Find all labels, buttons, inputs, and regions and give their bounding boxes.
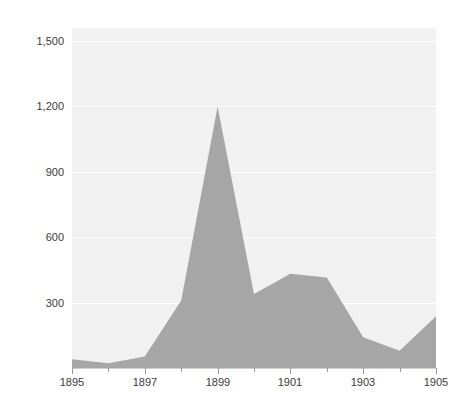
x-tick-minor-1896 xyxy=(108,368,109,372)
y-tick-label-300: 300 xyxy=(0,297,64,309)
x-tick-major-1903 xyxy=(363,368,364,374)
x-axis-tick-labels: 189518971899190119031905 xyxy=(72,376,437,392)
x-tick-minor-1898 xyxy=(181,368,182,372)
plot-area xyxy=(72,28,436,368)
x-tick-label-1903: 1903 xyxy=(333,376,393,388)
x-axis-ticks xyxy=(72,368,437,374)
x-tick-major-1897 xyxy=(145,368,146,374)
x-tick-label-1901: 1901 xyxy=(260,376,320,388)
x-tick-label-1899: 1899 xyxy=(188,376,248,388)
area-series-polygon xyxy=(72,106,436,368)
x-tick-minor-1900 xyxy=(254,368,255,372)
area-series-mergers xyxy=(72,28,436,368)
x-tick-label-1895: 1895 xyxy=(42,376,102,388)
x-tick-minor-1904 xyxy=(400,368,401,372)
x-tick-major-1899 xyxy=(218,368,219,374)
x-tick-label-1905: 1905 xyxy=(406,376,466,388)
y-tick-label-900: 900 xyxy=(0,166,64,178)
x-tick-major-1901 xyxy=(290,368,291,374)
x-tick-major-1905 xyxy=(436,368,437,374)
y-axis-tick-labels: 3006009001,2001,500 xyxy=(0,28,64,368)
chart-figure: Number of mergers 3006009001,2001,500 18… xyxy=(0,0,469,402)
x-tick-minor-1902 xyxy=(327,368,328,372)
y-tick-label-1200: 1,200 xyxy=(0,100,64,112)
x-tick-major-1895 xyxy=(72,368,73,374)
y-tick-label-1500: 1,500 xyxy=(0,35,64,47)
y-tick-label-600: 600 xyxy=(0,231,64,243)
x-tick-label-1897: 1897 xyxy=(115,376,175,388)
